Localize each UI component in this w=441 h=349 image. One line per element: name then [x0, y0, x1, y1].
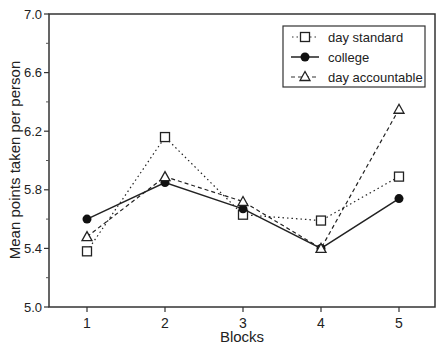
series-day-accountable [82, 104, 404, 252]
line-chart: 5.05.45.86.26.67.0 12345 Blocks Mean poi… [0, 0, 441, 349]
y-axis: 5.05.45.86.26.67.0 [24, 7, 49, 315]
open-triangle-marker [82, 232, 92, 241]
y-axis-title: Mean points taken per person [6, 61, 23, 259]
open-triangle-marker [160, 172, 170, 181]
filled-circle-icon [301, 53, 310, 62]
x-axis-title: Blocks [220, 328, 264, 345]
legend: day standard college day accountable [283, 26, 425, 87]
y-tick-label: 5.0 [24, 300, 42, 315]
legend-label: day standard [328, 30, 403, 45]
y-tick-label: 7.0 [24, 7, 42, 22]
y-tick-label: 5.8 [24, 182, 42, 197]
open-triangle-marker [394, 104, 404, 113]
filled-circle-marker [395, 194, 404, 203]
open-square-icon [301, 33, 310, 42]
y-tick-label: 5.4 [24, 241, 42, 256]
open-square-marker [317, 216, 326, 225]
open-square-marker [83, 247, 92, 256]
series-line [87, 109, 399, 248]
x-tick-label: 1 [83, 315, 91, 331]
legend-label: day accountable [328, 70, 423, 85]
filled-circle-marker [83, 215, 92, 224]
series-layer [82, 104, 404, 256]
series-line [87, 137, 399, 251]
open-square-marker [395, 172, 404, 181]
x-tick-label: 5 [395, 315, 403, 331]
open-square-marker [161, 133, 170, 142]
y-tick-label: 6.6 [24, 65, 42, 80]
series-day-standard [83, 133, 404, 256]
x-tick-label: 2 [161, 315, 169, 331]
y-tick-label: 6.2 [24, 124, 42, 139]
legend-label: college [328, 50, 369, 65]
x-tick-label: 4 [317, 315, 325, 331]
